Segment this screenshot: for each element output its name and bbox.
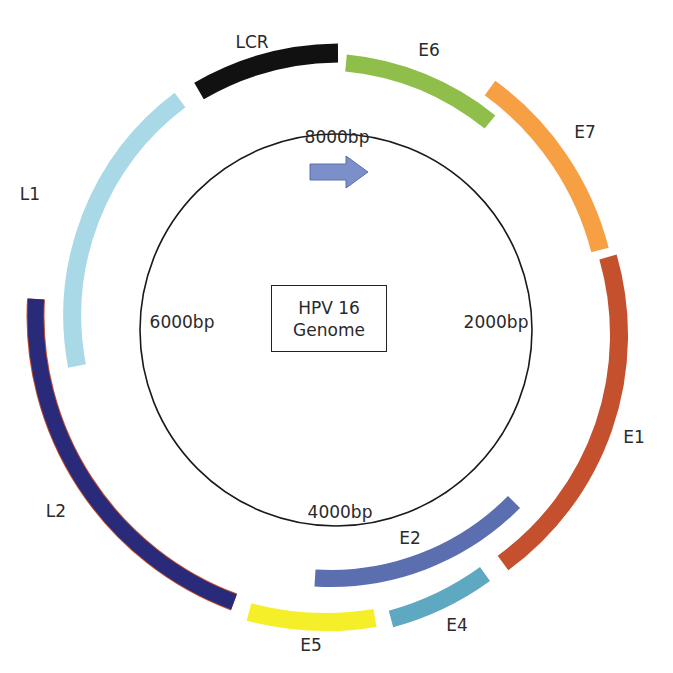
gene-label-lcr: LCR — [235, 32, 268, 52]
gene-arc-e7 — [490, 88, 600, 250]
gene-arc-e4 — [391, 574, 485, 619]
gene-arc-e1 — [503, 257, 619, 563]
position-label-top: 8000bp — [305, 127, 370, 147]
genome-title-line2: Genome — [293, 319, 365, 341]
gene-label-e4: E4 — [446, 615, 468, 635]
direction-arrow-icon — [310, 156, 368, 188]
gene-label-l2: L2 — [46, 501, 66, 521]
gene-arc-lcr — [199, 53, 338, 91]
gene-label-e5: E5 — [300, 635, 322, 655]
position-label-left: 6000bp — [150, 312, 215, 332]
gene-label-l1: L1 — [20, 184, 40, 204]
gene-label-e2: E2 — [399, 528, 421, 548]
genome-title-line1: HPV 16 — [298, 297, 360, 319]
gene-label-e6: E6 — [418, 40, 440, 60]
gene-label-e7: E7 — [574, 122, 596, 142]
genome-title-box: HPV 16 Genome — [271, 285, 387, 352]
gene-label-e1: E1 — [623, 427, 645, 447]
position-label-right: 2000bp — [464, 312, 529, 332]
position-label-bottom: 4000bp — [308, 502, 373, 522]
gene-arc-e5 — [249, 612, 375, 622]
gene-arc-e6 — [346, 63, 490, 122]
